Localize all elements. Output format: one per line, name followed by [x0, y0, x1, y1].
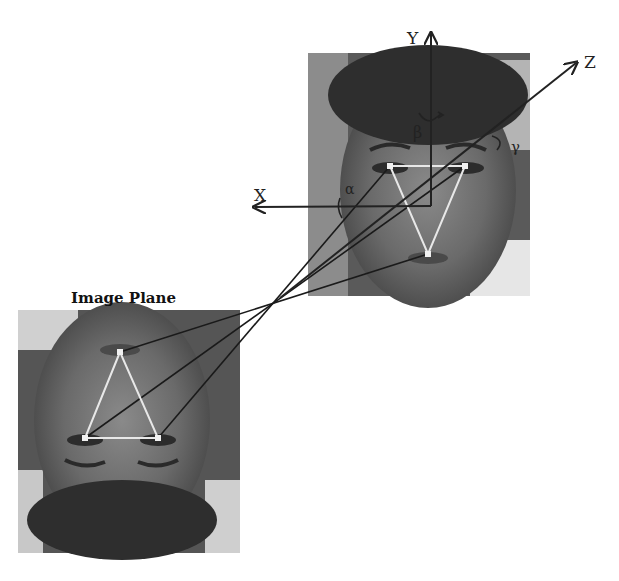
x-axis [255, 206, 431, 207]
head-pose-diagram: X Y Z α β γ Image Plane [0, 0, 619, 581]
image-plane-title: Image Plane [71, 289, 176, 307]
x-axis-label: X [254, 185, 267, 205]
image-mouth-point [117, 349, 123, 355]
head-left-eye-point [387, 163, 393, 169]
head-photo [308, 45, 530, 308]
alpha-label: α [345, 181, 355, 197]
gamma-label: γ [511, 138, 520, 156]
image-plane-photo [18, 302, 240, 560]
head-right-eye-point [462, 163, 468, 169]
image-left-eye-point [82, 435, 88, 441]
z-axis-label: Z [584, 52, 596, 72]
head-mouth-point [425, 251, 431, 257]
beta-label: β [413, 123, 422, 142]
y-axis-label: Y [406, 28, 419, 48]
image-right-eye-point [155, 435, 161, 441]
